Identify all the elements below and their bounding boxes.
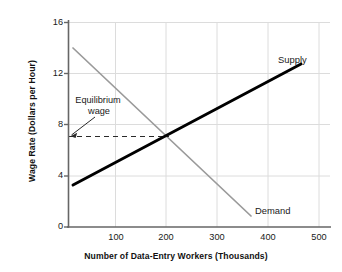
- x-tick-label-500: 500: [304, 232, 334, 242]
- axis-lines: [67, 20, 331, 228]
- x-tick-label-200: 200: [151, 232, 181, 242]
- y-tick-label-12: 12: [41, 68, 63, 78]
- x-tick-label-400: 400: [253, 232, 283, 242]
- y-axis-title: Wage Rate (Dollars per Hour): [27, 26, 37, 216]
- equilibrium-wage-label-line1: Equilibrium: [60, 95, 136, 106]
- x-tick-label-100: 100: [101, 232, 131, 242]
- y-tick-label-0: 0: [41, 221, 63, 231]
- y-tick-label-4: 4: [41, 170, 63, 180]
- equilibrium-wage-label-line2: wage: [68, 106, 130, 117]
- x-axis-title: Number of Data-Entry Workers (Thousands): [26, 251, 326, 261]
- demand-series-label: Demand: [255, 205, 290, 216]
- x-tick-label-300: 300: [202, 232, 232, 242]
- supply-demand-chart: Wage Rate (Dollars per Hour) Number of D…: [0, 0, 342, 272]
- supply-series-label: Supply: [278, 54, 307, 65]
- y-tick-label-8: 8: [41, 119, 63, 129]
- equilibrium-arrow: [71, 117, 96, 138]
- y-tick-label-16: 16: [41, 17, 63, 27]
